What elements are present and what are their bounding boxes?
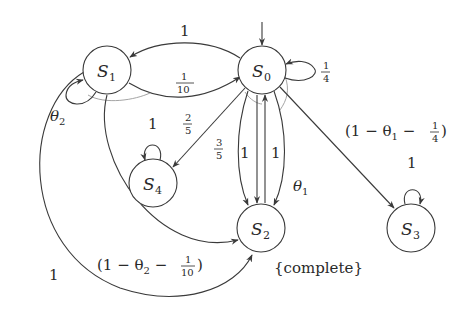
label-s0-s2-c: θ 1 <box>293 177 308 197</box>
label-s1-s2-inner: (1 − θ2 − 1 10 ) <box>97 254 203 278</box>
edge-s4-loop <box>144 145 160 160</box>
expr-post: ) <box>197 256 203 274</box>
node-s2-sub: 2 <box>263 229 270 242</box>
state-diagram: S 1 S 0 S 4 S 2 S 3 1 1 10 1 4 θ 2 2 5 <box>0 0 465 324</box>
label-s1-loop: θ 2 <box>50 107 65 127</box>
node-s3-sub: 3 <box>413 229 420 242</box>
label-s1-s2-outer: 1 <box>49 266 59 284</box>
label-s0-s2-a: 3 5 <box>214 137 223 161</box>
node-s3: S 3 <box>387 204 435 252</box>
label-s0-s2-b: 1 <box>240 144 250 162</box>
frac-num: 1 <box>432 120 438 131</box>
angle-arc-s1 <box>88 93 150 101</box>
label-s0-s3: (1 − θ1 − 1 4 ) <box>345 120 447 144</box>
expr: (1 − θ2 − <box>97 256 167 276</box>
frac-den: 5 <box>216 150 222 161</box>
frac-num: 1 <box>323 60 329 71</box>
label-s3-loop: 1 <box>407 154 417 172</box>
frac-den: 10 <box>177 84 190 95</box>
edge-s3-loop <box>404 190 420 204</box>
sub: 2 <box>59 116 65 127</box>
frac-num: 1 <box>181 71 187 82</box>
theta: θ <box>293 177 302 195</box>
node-s0: S 0 <box>238 46 286 94</box>
label-s2-s0: 1 <box>271 144 281 162</box>
theta: θ <box>50 107 59 125</box>
node-s4: S 4 <box>129 159 177 207</box>
label-s0-loop: 1 4 <box>321 60 330 84</box>
expr-mid: − <box>398 122 415 140</box>
s2-annotation: {complete} <box>274 259 363 277</box>
frac-den: 4 <box>432 133 438 144</box>
node-s0-sub: 0 <box>264 71 271 84</box>
expr: (1 − θ1 − <box>345 122 415 142</box>
frac-den: 10 <box>181 267 194 278</box>
node-s2: S 2 <box>237 204 285 252</box>
label-s4-loop: 1 <box>148 115 158 133</box>
label-s1-s0: 1 10 <box>176 71 194 95</box>
expr-post: ) <box>441 122 447 140</box>
node-s4-label: S <box>143 174 155 194</box>
edge-s0-s4 <box>173 88 245 167</box>
label-s0-s1: 1 <box>180 22 190 40</box>
node-s1: S 1 <box>83 46 131 94</box>
node-s1-label: S <box>97 61 109 81</box>
frac-num: 3 <box>216 137 222 148</box>
node-s2-label: S <box>251 219 263 239</box>
edge-s0-s1 <box>130 43 240 58</box>
expr-pre: (1 − θ <box>97 256 144 274</box>
frac-den: 5 <box>185 125 191 136</box>
label-s0-s4: 2 5 <box>183 112 192 136</box>
frac-num: 2 <box>185 112 191 123</box>
frac-num: 1 <box>185 254 191 265</box>
expr-pre: (1 − θ <box>345 122 392 140</box>
frac-den: 4 <box>323 73 329 84</box>
sub: 1 <box>302 186 308 197</box>
node-s4-sub: 4 <box>155 184 162 197</box>
edge-s0-loop <box>285 61 315 80</box>
expr-mid: − <box>150 256 167 274</box>
node-s3-label: S <box>401 219 413 239</box>
node-s0-label: S <box>252 61 264 81</box>
node-s1-sub: 1 <box>109 71 116 84</box>
